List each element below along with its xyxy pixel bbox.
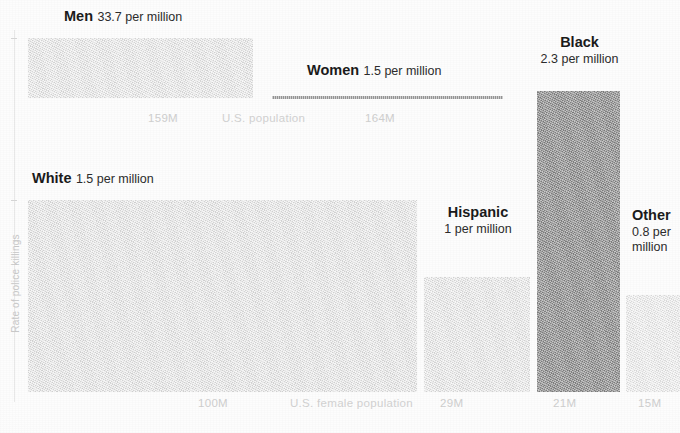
y-axis-title: Rate of police killings	[10, 209, 21, 359]
chart-canvas: Rate of police killings Men 33.7 per mil…	[0, 0, 680, 433]
callout-black-name: Black	[522, 34, 637, 52]
bar-white	[28, 200, 417, 392]
width-label-black: 21M	[553, 397, 576, 409]
bar-other	[626, 295, 680, 392]
callout-other-name: Other	[632, 207, 680, 225]
callout-men-name: Men	[64, 8, 93, 24]
bar-hispanic	[424, 277, 530, 392]
callout-black-rate: 2.3 per million	[522, 52, 637, 67]
callout-women-name: Women	[307, 62, 359, 78]
callout-white-rate: 1.5 per million	[76, 172, 154, 186]
callout-other: Other 0.8 per million	[632, 207, 680, 255]
width-label-hispanic: 29M	[440, 397, 463, 409]
callout-hispanic-name: Hispanic	[422, 204, 534, 222]
width-label-white: 100M	[198, 397, 228, 409]
bar-black	[537, 91, 620, 392]
y-axis-tick-top	[11, 38, 17, 39]
callout-white: White 1.5 per million	[32, 168, 154, 188]
y-axis-tick-mid	[11, 200, 17, 201]
callout-hispanic-rate: 1 per million	[422, 222, 534, 237]
callout-black: Black 2.3 per million	[522, 34, 637, 67]
bar-men	[28, 38, 253, 98]
callout-other-rate-line2: million	[632, 240, 680, 255]
callout-other-rate-line1: 0.8 per	[632, 225, 680, 240]
callout-men: Men 33.7 per million	[64, 6, 182, 26]
width-label-men: 159M	[148, 112, 178, 124]
bar-women	[272, 96, 503, 99]
x-axis-caption-top: U.S. population	[222, 112, 305, 124]
x-axis-caption-bottom: U.S. female population	[290, 397, 413, 409]
callout-men-rate: 33.7 per million	[97, 10, 182, 24]
callout-women-rate: 1.5 per million	[364, 64, 442, 78]
callout-white-name: White	[32, 170, 71, 186]
callout-women: Women 1.5 per million	[307, 60, 441, 80]
callout-hispanic: Hispanic 1 per million	[422, 204, 534, 237]
width-label-women: 164M	[365, 112, 395, 124]
width-label-other: 15M	[638, 397, 661, 409]
